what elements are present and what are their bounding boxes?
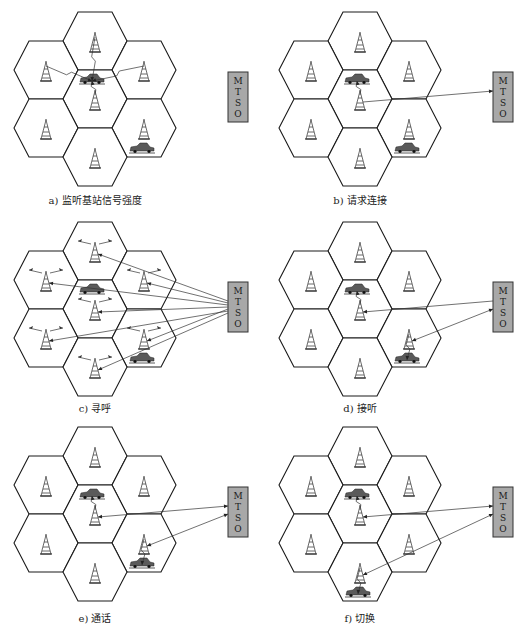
mtso-letter: S xyxy=(500,98,506,108)
panel-a-monitor-signal-strength: MTSO a) 监听基站信号强度 xyxy=(0,0,264,210)
cell-diagram: MTSO xyxy=(265,0,529,190)
cell-grid xyxy=(14,427,176,601)
mtso-switch: MTSO xyxy=(493,282,513,332)
mtso-switch: MTSO xyxy=(228,282,248,332)
mtso-switch: MTSO xyxy=(228,487,248,537)
mtso-letter: M xyxy=(233,286,242,296)
cell-diagram: MTSO xyxy=(265,210,529,400)
caption: a) 监听基站信号强度 xyxy=(0,192,190,207)
mtso-switch: MTSO xyxy=(228,72,248,122)
mtso-switch: MTSO xyxy=(493,72,513,122)
mtso-letter: T xyxy=(500,502,506,512)
mtso-letter: M xyxy=(233,491,242,501)
caption: c) 寻呼 xyxy=(0,400,190,415)
mtso-letter: S xyxy=(235,98,241,108)
caption: b) 请求连接 xyxy=(265,192,455,207)
caption: f) 切换 xyxy=(265,610,455,625)
mtso-switch: MTSO xyxy=(493,487,513,537)
mtso-letter: T xyxy=(500,87,506,97)
mtso-letter: M xyxy=(233,76,242,86)
panel-e-call-in-progress: MTSO e) 通话 xyxy=(0,415,264,625)
panel-d-answer: MTSO d) 接听 xyxy=(265,210,529,420)
mtso-letter: T xyxy=(235,87,241,97)
cell-diagram: MTSO xyxy=(0,210,264,400)
mtso-letter: M xyxy=(498,76,507,86)
panel-b-request-connection: MTSO b) 请求连接 xyxy=(265,0,529,210)
mtso-letter: S xyxy=(235,308,241,318)
mtso-letter: O xyxy=(499,524,506,534)
mtso-letter: O xyxy=(234,524,241,534)
mtso-letter: T xyxy=(500,297,506,307)
mtso-letter: M xyxy=(498,491,507,501)
mtso-letter: T xyxy=(235,297,241,307)
cell-diagram: MTSO xyxy=(265,415,529,605)
mtso-letter: S xyxy=(500,308,506,318)
caption: e) 通话 xyxy=(0,610,190,625)
mtso-letter: S xyxy=(235,513,241,523)
mtso-letter: M xyxy=(498,286,507,296)
mtso-letter: O xyxy=(234,319,241,329)
cell-grid xyxy=(279,222,441,396)
mtso-letter: S xyxy=(500,513,506,523)
cell-diagram: MTSO xyxy=(0,0,264,190)
mtso-letter: O xyxy=(499,109,506,119)
mtso-letter: O xyxy=(499,319,506,329)
panel-f-handoff: MTSO f) 切换 xyxy=(265,415,529,625)
caption: d) 接听 xyxy=(265,400,455,415)
mtso-letter: O xyxy=(234,109,241,119)
cell-grid xyxy=(279,427,441,601)
mtso-letter: T xyxy=(235,502,241,512)
cell-diagram: MTSO xyxy=(0,415,264,605)
panel-c-paging: MTSO c) 寻呼 xyxy=(0,210,264,420)
cell-grid xyxy=(14,222,176,396)
cell-grid xyxy=(279,12,441,186)
